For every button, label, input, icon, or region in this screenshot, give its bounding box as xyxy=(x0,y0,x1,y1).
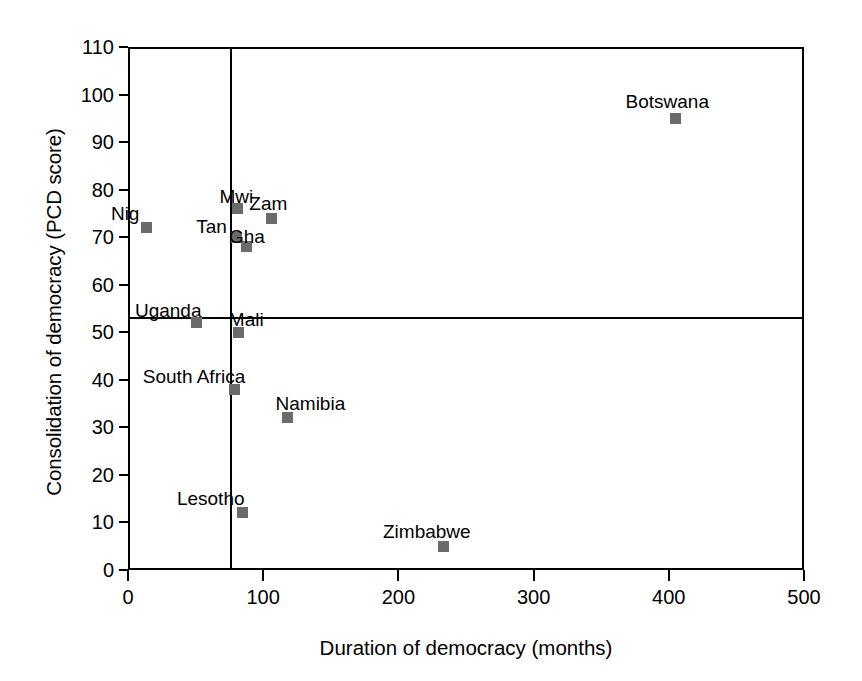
y-axis-tick-label: 80 xyxy=(56,179,114,202)
data-point-marker[interactable] xyxy=(282,412,293,423)
x-axis-tick-label: 500 xyxy=(764,586,844,609)
x-axis-tick xyxy=(533,570,535,581)
y-axis-tick-label: 100 xyxy=(56,84,114,107)
x-axis-tick-label: 400 xyxy=(629,586,709,609)
y-axis-tick-label: 90 xyxy=(56,131,114,154)
y-axis-tick xyxy=(119,284,128,286)
x-axis-tick-label: 300 xyxy=(494,586,574,609)
x-axis-tick xyxy=(127,570,129,581)
x-axis-tick xyxy=(397,570,399,581)
y-axis-tick xyxy=(119,189,128,191)
scatter-plot-figure: Consolidation of democracy (PCD score) 0… xyxy=(0,0,862,681)
data-point-marker[interactable] xyxy=(670,113,681,124)
data-point-marker[interactable] xyxy=(438,541,449,552)
y-axis-tick-label: 40 xyxy=(56,369,114,392)
x-axis-tick-label: 200 xyxy=(358,586,438,609)
x-axis-tick xyxy=(803,570,805,581)
y-axis-tick xyxy=(119,331,128,333)
y-axis-tick xyxy=(119,379,128,381)
data-point-label: Mali xyxy=(229,310,264,329)
y-axis-tick xyxy=(119,236,128,238)
y-axis-tick-label: 110 xyxy=(56,36,114,59)
y-axis-tick-label: 20 xyxy=(56,464,114,487)
y-axis-tick xyxy=(119,46,128,48)
data-point-label: Zam xyxy=(249,194,287,213)
data-point-label: South Africa xyxy=(143,367,245,386)
y-axis-tick xyxy=(119,521,128,523)
data-point-marker[interactable] xyxy=(141,222,152,233)
y-axis-tick-label: 50 xyxy=(56,321,114,344)
x-axis-tick-label: 0 xyxy=(88,586,168,609)
y-axis-tick-label: 30 xyxy=(56,416,114,439)
x-axis-tick xyxy=(262,570,264,581)
y-axis-tick-label: 60 xyxy=(56,274,114,297)
x-axis-tick-label: 100 xyxy=(223,586,303,609)
x-axis-title: Duration of democracy (months) xyxy=(128,636,804,660)
data-point-label: Gha xyxy=(229,227,265,246)
y-axis-tick xyxy=(119,426,128,428)
data-point-marker[interactable] xyxy=(237,507,248,518)
data-point-label: Tan xyxy=(196,217,227,236)
data-point-label: Lesotho xyxy=(177,489,245,508)
y-axis-title-container: Consolidation of democracy (PCD score) xyxy=(8,0,52,620)
y-axis-tick xyxy=(119,141,128,143)
data-point-marker[interactable] xyxy=(266,213,277,224)
data-point-label: Namibia xyxy=(276,394,346,413)
data-point-label: Zimbabwe xyxy=(383,522,471,541)
data-point-label: Uganda xyxy=(135,301,202,320)
x-axis-tick xyxy=(668,570,670,581)
data-point-label: Botswana xyxy=(626,92,709,111)
y-axis-tick xyxy=(119,474,128,476)
y-axis-title: Consolidation of democracy (PCD score) xyxy=(42,52,66,572)
data-point-label: Nig xyxy=(111,204,140,223)
y-axis-tick-label: 10 xyxy=(56,511,114,534)
y-axis-tick-label: 70 xyxy=(56,226,114,249)
y-axis-tick xyxy=(119,94,128,96)
y-axis-tick-label: 0 xyxy=(56,559,114,582)
data-point-label: Mwi xyxy=(220,187,254,206)
